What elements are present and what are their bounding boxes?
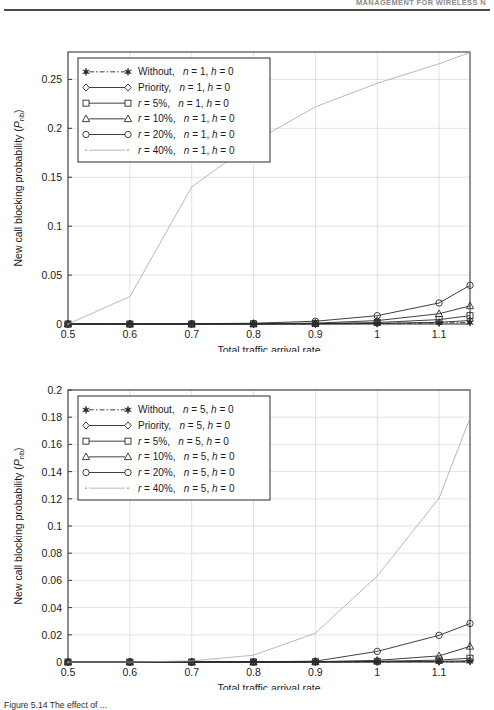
x-tick-label: 1.1 <box>432 328 447 340</box>
legend-label: Priority, n = 5, h = 0 <box>138 420 231 431</box>
legend-label: Priority, n = 1, h = 0 <box>138 82 231 93</box>
y-tick-label: 0 <box>56 656 62 668</box>
y-tick-label: 0.18 <box>42 411 63 423</box>
x-tick-label: 0.6 <box>123 328 138 340</box>
x-tick-label: 0.8 <box>246 328 261 340</box>
y-tick-label: 0.04 <box>42 602 63 614</box>
y-axis-label: New call blocking probability (Pnb) <box>12 447 26 604</box>
data-point-marker <box>127 149 129 151</box>
page-header: MANAGEMENT FOR WIRELESS N <box>0 0 494 16</box>
data-point-marker <box>127 487 129 489</box>
data-point-marker <box>469 52 471 54</box>
chart-top-plot-area: 0.50.60.70.80.911.100.050.10.150.20.25To… <box>0 22 494 352</box>
legend-label: Without, n = 5, h = 0 <box>138 404 234 415</box>
y-tick-label: 0.08 <box>42 547 63 559</box>
legend-label: r = 40%, n = 5, h = 0 <box>138 483 235 494</box>
x-tick-label: 1.1 <box>432 666 447 678</box>
legend-label: r = 20%, n = 5, h = 0 <box>138 467 235 478</box>
legend-label: r = 40%, n = 1, h = 0 <box>138 145 235 156</box>
y-tick-label: 0.16 <box>42 438 63 450</box>
legend-label: r = 10%, n = 5, h = 0 <box>138 451 235 462</box>
chart-top-svg: 0.50.60.70.80.911.100.050.10.150.20.25To… <box>0 22 494 352</box>
x-tick-label: 0.7 <box>184 666 199 678</box>
x-tick-label: 0.8 <box>246 666 261 678</box>
x-tick-label: 0.6 <box>123 666 138 678</box>
x-tick-label: 0.9 <box>308 666 323 678</box>
chart-bottom: 0.50.60.70.80.911.100.020.040.060.080.10… <box>0 360 494 690</box>
y-tick-label: 0.12 <box>42 493 63 505</box>
x-tick-label: 0.5 <box>61 328 76 340</box>
legend-label: Without, n = 1, h = 0 <box>138 66 234 77</box>
x-axis-label: Total traffic arrival rate <box>217 682 320 690</box>
legend-label: r = 10%, n = 1, h = 0 <box>138 113 235 124</box>
data-point-marker <box>85 487 87 489</box>
y-tick-label: 0.25 <box>42 73 63 85</box>
y-tick-label: 0.2 <box>47 122 62 134</box>
legend-label: r = 5%, n = 5, h = 0 <box>138 436 229 447</box>
x-tick-label: 0.5 <box>61 666 76 678</box>
chart-bottom-plot-area: 0.50.60.70.80.911.100.020.040.060.080.10… <box>0 360 494 690</box>
data-point-marker <box>469 417 471 419</box>
data-point-marker <box>85 149 87 151</box>
legend-label: r = 20%, n = 1, h = 0 <box>138 129 235 140</box>
x-axis-label: Total traffic arrival rate <box>217 344 320 352</box>
running-head: MANAGEMENT FOR WIRELESS N <box>356 0 486 7</box>
y-tick-label: 0.1 <box>47 520 62 532</box>
chart-bottom-svg: 0.50.60.70.80.911.100.020.040.060.080.10… <box>0 360 494 690</box>
y-tick-label: 0.1 <box>47 220 62 232</box>
y-tick-label: 0.05 <box>42 269 63 281</box>
x-tick-label: 0.7 <box>184 328 199 340</box>
legend: Without, n = 5, h = 0Priority, n = 5, h … <box>78 396 270 500</box>
y-tick-label: 0.2 <box>47 384 62 396</box>
data-series-line <box>68 624 470 662</box>
header-rule <box>4 9 490 11</box>
y-axis-label: New call blocking probability (Pnb) <box>12 109 26 266</box>
y-tick-label: 0.06 <box>42 574 63 586</box>
x-tick-label: 1 <box>374 328 380 340</box>
data-point-marker <box>67 661 69 663</box>
legend: Without, n = 1, h = 0Priority, n = 1, h … <box>78 58 270 162</box>
y-tick-label: 0.15 <box>42 171 63 183</box>
y-tick-label: 0.02 <box>42 629 63 641</box>
data-series-line <box>68 285 470 324</box>
data-point-marker <box>67 323 69 325</box>
y-tick-label: 0 <box>56 318 62 330</box>
y-tick-label: 0.14 <box>42 466 63 478</box>
x-tick-label: 1 <box>374 666 380 678</box>
figure-caption: Figure 5.14 The effect of ... <box>4 700 474 710</box>
legend-label: r = 5%, n = 1, h = 0 <box>138 98 229 109</box>
x-tick-label: 0.9 <box>308 328 323 340</box>
chart-top: 0.50.60.70.80.911.100.050.10.150.20.25To… <box>0 22 494 352</box>
